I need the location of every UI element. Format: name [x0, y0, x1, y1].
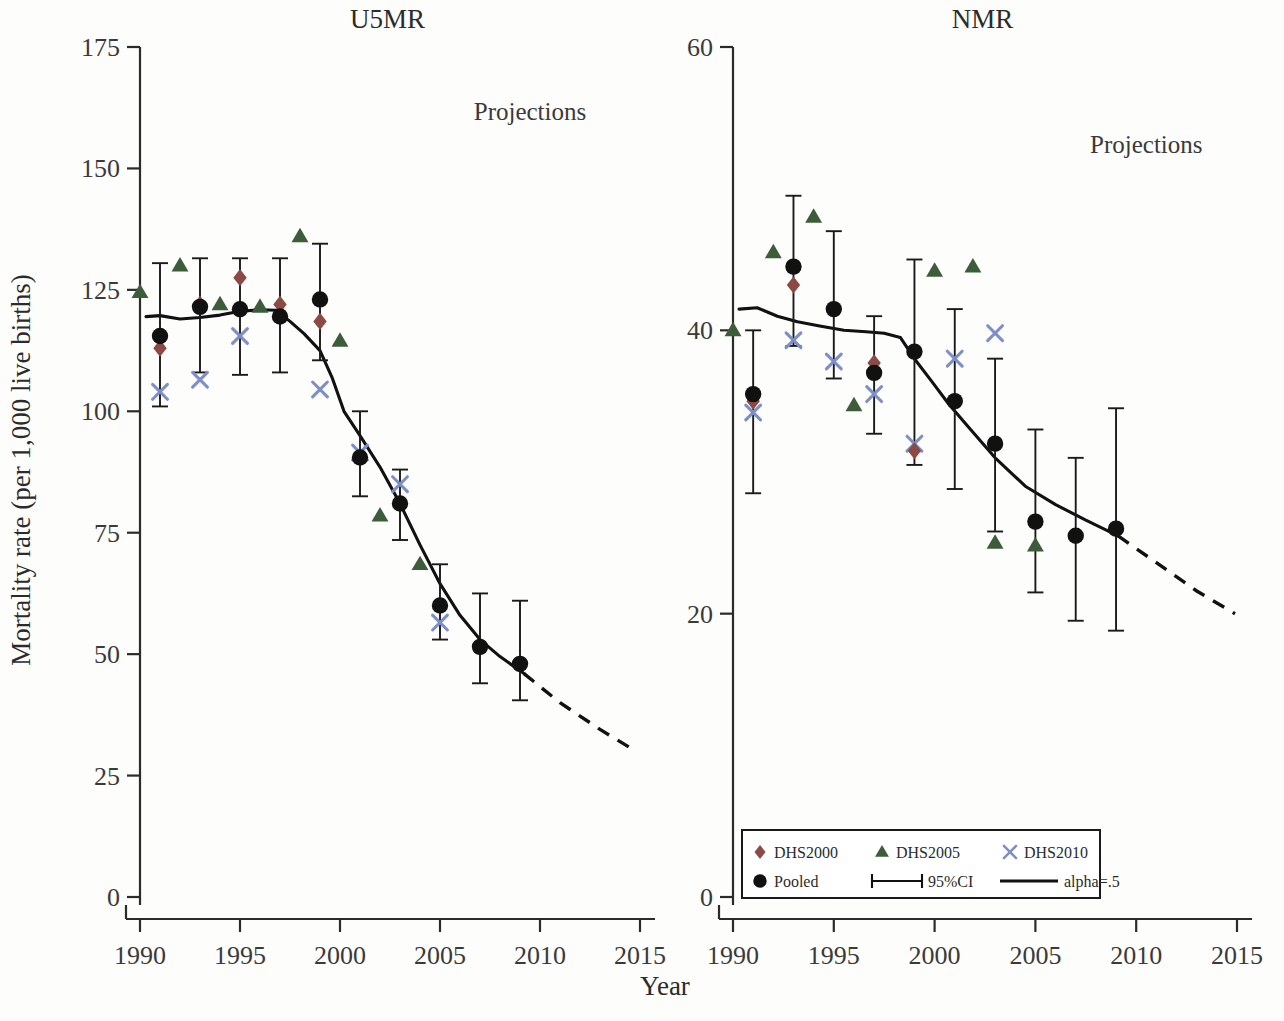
panel-title-right: NMR	[952, 4, 1014, 34]
dhs2000-marker	[787, 276, 800, 293]
marker-circle	[312, 291, 328, 307]
pooled-marker	[947, 393, 963, 409]
x-tick-label: 2000	[909, 941, 961, 970]
fit-line-dashed	[524, 674, 632, 749]
marker-diamond	[787, 276, 800, 293]
x-tick-label: 2005	[414, 941, 466, 970]
marker-triangle	[926, 262, 943, 276]
marker-triangle	[372, 507, 389, 521]
panel-left: U5MR025507510012515017519901995200020052…	[81, 4, 666, 970]
dhs2010-marker	[313, 382, 328, 397]
legend: DHS2000DHS2005DHS2010Pooled95%CIalpha=.5	[742, 830, 1120, 898]
dhs2005-marker	[1027, 537, 1044, 551]
marker-triangle	[987, 534, 1004, 548]
x-tick-label: 2015	[1211, 941, 1263, 970]
marker-diamond	[313, 313, 326, 330]
dhs2005-marker	[172, 257, 189, 271]
dhs2005-marker	[765, 244, 782, 258]
pooled-marker	[352, 449, 368, 465]
marker-triangle	[765, 244, 782, 258]
marker-circle	[1068, 528, 1084, 544]
y-tick-label: 40	[687, 316, 713, 345]
x-tick-label: 2005	[1009, 941, 1061, 970]
y-axis-title: Mortality rate (per 1,000 live births)	[6, 274, 36, 665]
marker-cross	[313, 382, 328, 397]
x-tick-label: 2000	[314, 941, 366, 970]
dhs2010-marker	[988, 326, 1003, 341]
legend-label-alpha: alpha=.5	[1064, 873, 1120, 891]
dhs2005-marker	[987, 534, 1004, 548]
x-tick-label: 1990	[707, 941, 759, 970]
pooled-marker	[312, 291, 328, 307]
x-axis-title: Year	[640, 971, 690, 1001]
marker-circle	[1108, 520, 1124, 536]
panel-title-left: U5MR	[350, 4, 425, 34]
series-pooled	[152, 291, 528, 672]
dhs2000-marker	[313, 313, 326, 330]
pooled-marker	[785, 258, 801, 274]
marker-triangle	[332, 332, 349, 346]
marker-circle	[472, 639, 488, 655]
pooled-marker	[987, 435, 1003, 451]
marker-circle	[947, 393, 963, 409]
legend-label-dhs2010: DHS2010	[1024, 844, 1088, 861]
marker-circle	[753, 874, 766, 887]
fit-line-dashed	[1118, 536, 1235, 614]
dhs2010-marker	[193, 372, 208, 387]
projections-label: Projections	[1090, 131, 1203, 158]
marker-circle	[866, 365, 882, 381]
x-tick-label: 2010	[514, 941, 566, 970]
y-tick-label: 125	[81, 276, 120, 305]
marker-circle	[1027, 513, 1043, 529]
pooled-marker	[1068, 528, 1084, 544]
dhs2005-marker	[805, 208, 822, 222]
error-bars	[745, 196, 1124, 631]
marker-triangle	[1027, 537, 1044, 551]
marker-cross	[193, 372, 208, 387]
marker-triangle	[252, 298, 269, 312]
pooled-marker	[392, 495, 408, 511]
marker-circle	[987, 435, 1003, 451]
y-tick-label: 25	[94, 762, 120, 791]
marker-circle	[392, 495, 408, 511]
figure-root: U5MR025507510012515017519901995200020052…	[0, 0, 1284, 1021]
fit-line-solid	[146, 310, 524, 674]
y-tick-label: 175	[81, 33, 120, 62]
legend-label-dhs2000: DHS2000	[774, 844, 838, 861]
dhs2005-marker	[372, 507, 389, 521]
y-tick-label: 75	[94, 519, 120, 548]
pooled-marker	[826, 301, 842, 317]
marker-circle	[152, 328, 168, 344]
dual-panel-mortality-chart: U5MR025507510012515017519901995200020052…	[0, 0, 1284, 1021]
x-tick-label: 1995	[214, 941, 266, 970]
projections-label: Projections	[474, 98, 587, 125]
dhs2005-marker	[846, 397, 863, 411]
pooled-marker	[906, 343, 922, 359]
marker-triangle	[172, 257, 189, 271]
y-tick-label: 150	[81, 154, 120, 183]
dhs2005-marker	[292, 228, 309, 242]
marker-diamond	[908, 442, 921, 459]
x-tick-label: 2015	[614, 941, 666, 970]
marker-triangle	[964, 258, 981, 272]
marker-circle	[906, 343, 922, 359]
x-tick-label: 2010	[1110, 941, 1162, 970]
dhs2000-marker	[233, 269, 246, 286]
dhs2000-marker	[908, 442, 921, 459]
marker-triangle	[212, 296, 229, 310]
dhs2005-marker	[252, 298, 269, 312]
y-tick-label: 0	[700, 883, 713, 912]
pooled-marker	[152, 328, 168, 344]
pooled-marker	[232, 301, 248, 317]
marker-triangle	[292, 228, 309, 242]
x-tick-label: 1990	[114, 941, 166, 970]
marker-circle	[352, 449, 368, 465]
panel-right: NMR0204060199019952000200520102015Projec…	[687, 4, 1263, 970]
dhs2005-marker	[926, 262, 943, 276]
y-tick-label: 20	[687, 600, 713, 629]
marker-diamond	[233, 269, 246, 286]
pooled-marker	[745, 386, 761, 402]
pooled-marker	[753, 874, 766, 887]
dhs2005-marker	[964, 258, 981, 272]
pooled-marker	[272, 308, 288, 324]
